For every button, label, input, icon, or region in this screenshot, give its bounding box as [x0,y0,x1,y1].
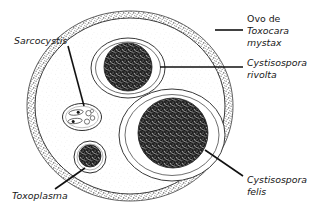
label-cystisospora-rivolta[interactable]: Cystisospora rivolta [247,57,307,80]
label-rivolta-line-1: Cystisospora [247,57,307,68]
diagram-canvas: Ovo de Toxocara mystax Cystisospora rivo… [0,0,321,217]
toxoplasma-oocyst [74,141,106,173]
label-sarcocystis-text: Sarcocystis [14,35,67,46]
felis-sporont [138,98,208,168]
label-ovo-de-toxocara-mystax[interactable]: Ovo de Toxocara mystax [247,13,289,48]
sarcocystis-wall [63,104,102,131]
cystisospora-felis-oocyst [119,89,225,181]
toxoplasma-sporont [79,145,101,167]
residual-body-3 [84,119,89,124]
cystisospora-rivolta-oocyst [91,38,165,98]
sporozoite-1-nucleus [77,111,80,114]
label-rivolta-line-2: rivolta [247,69,277,80]
label-toxocara-line-3: mystax [247,37,282,48]
sporozoite-2-nucleus [72,120,75,123]
label-felis-line-2: felis [247,186,266,197]
residual-body-2 [90,116,95,121]
label-toxoplasma-text: Toxoplasma [12,190,68,201]
label-cystisospora-felis[interactable]: Cystisospora felis [247,174,307,197]
parasitology-figure: Ovo de Toxocara mystax Cystisospora rivo… [0,0,321,217]
rivolta-sporont [104,43,152,91]
residual-body-4 [90,109,93,112]
label-sarcocystis[interactable]: Sarcocystis [14,35,67,46]
sarcocystis-sporocyst [63,104,102,131]
label-toxocara-line-2: Toxocara [247,25,289,36]
label-toxocara-line-1: Ovo de [247,13,281,24]
label-felis-line-1: Cystisospora [247,174,307,185]
label-toxoplasma[interactable]: Toxoplasma [12,190,68,201]
